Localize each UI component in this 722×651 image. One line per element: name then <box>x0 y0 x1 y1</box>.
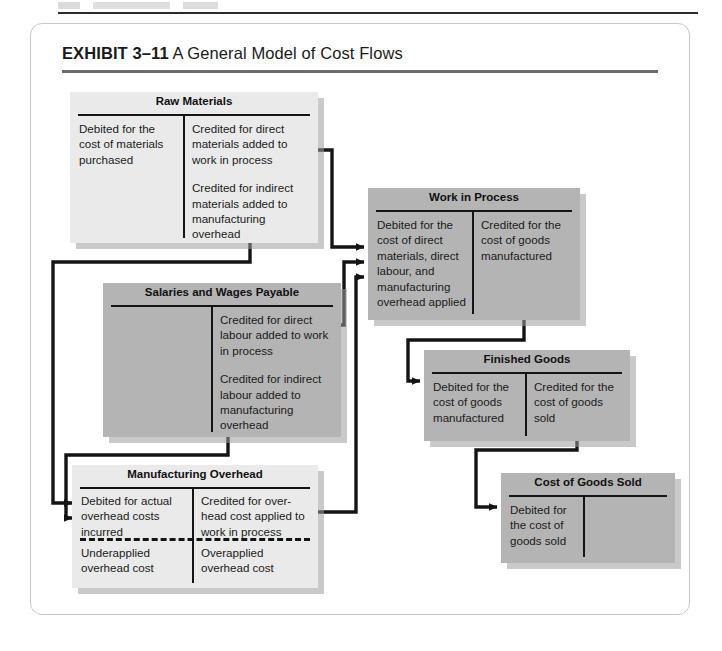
account-center-rule <box>583 497 585 557</box>
credit-entry: Credited for indirect materials added to… <box>192 180 310 242</box>
account-header-rule <box>509 495 667 497</box>
overapplied-entry: Overapplied overhead cost <box>201 545 313 576</box>
debit-entry: Debited for the cost of goods sold <box>510 502 580 548</box>
credit-entry: Credited for direct labour added to work… <box>220 312 334 358</box>
account-center-rule <box>211 307 213 432</box>
debit-column: Debited for the cost of goods manufactur… <box>433 379 523 425</box>
debit-column-below-line: Underapplied overhead cost <box>81 545 189 576</box>
account-title: Finished Goods <box>424 350 630 369</box>
debit-column: Debited for actual overhead costs incurr… <box>81 493 189 539</box>
credit-column: Credited for direct materials added to w… <box>192 121 310 242</box>
account-header-rule <box>78 114 310 116</box>
account-box-salaries-and-wages-payable: Salaries and Wages Payable Credited for … <box>103 283 341 437</box>
box-body: Finished Goods Debited for the cost of g… <box>424 350 630 441</box>
account-center-rule <box>472 212 474 314</box>
box-body: Raw Materials Debited for the cost of ma… <box>70 92 318 243</box>
credit-column: Credited for over-head cost applied to w… <box>201 493 313 539</box>
credit-entry: Credited for over-head cost applied to w… <box>201 493 313 539</box>
account-center-rule <box>192 489 194 583</box>
credit-entry: Credited for indirect labour added to ma… <box>220 371 334 433</box>
account-box-work-in-process: Work in Process Debited for the cost of … <box>368 188 580 320</box>
debit-entry: Debited for the cost of direct materials… <box>377 217 469 309</box>
debit-column: Debited for the cost of direct materials… <box>377 217 469 309</box>
account-box-manufacturing-overhead: Manufacturing Overhead Debited for actua… <box>72 465 318 588</box>
credit-column: Credited for the cost of goods sold <box>534 379 626 425</box>
account-center-rule <box>183 116 185 238</box>
credit-column-below-line: Overapplied overhead cost <box>201 545 313 576</box>
flow-rm-to-wip <box>318 150 364 247</box>
credit-column: Credited for the cost of goods manufactu… <box>481 217 573 263</box>
debit-entry: Debited for actual overhead costs incurr… <box>81 493 189 539</box>
debit-column: Debited for the cost of goods sold <box>510 502 580 548</box>
account-box-finished-goods: Finished Goods Debited for the cost of g… <box>424 350 630 441</box>
account-header-rule <box>111 305 333 307</box>
account-box-raw-materials: Raw Materials Debited for the cost of ma… <box>70 92 318 243</box>
account-header-rule <box>432 372 622 374</box>
box-body: Manufacturing Overhead Debited for actua… <box>72 465 318 588</box>
account-title: Manufacturing Overhead <box>72 465 318 484</box>
account-title: Salaries and Wages Payable <box>103 283 341 302</box>
credit-entry: Credited for the cost of goods manufactu… <box>481 217 573 263</box>
box-body: Work in Process Debited for the cost of … <box>368 188 580 320</box>
account-box-cost-of-goods-sold: Cost of Goods Sold Debited for the cost … <box>501 473 675 563</box>
credit-entry: Credited for the cost of goods sold <box>534 379 626 425</box>
account-title: Work in Process <box>368 188 580 207</box>
box-body: Salaries and Wages Payable Credited for … <box>103 283 341 437</box>
credit-column: Credited for direct labour added to work… <box>220 312 334 433</box>
box-body: Cost of Goods Sold Debited for the cost … <box>501 473 675 563</box>
account-title: Cost of Goods Sold <box>501 473 675 492</box>
account-center-rule <box>525 374 527 436</box>
credit-entry: Credited for direct materials added to w… <box>192 121 310 167</box>
account-header-rule <box>376 210 572 212</box>
account-title: Raw Materials <box>70 92 318 111</box>
account-header-rule <box>80 487 310 489</box>
debit-entry: Debited for the cost of goods manufactur… <box>433 379 523 425</box>
debit-entry: Debited for the cost of materials purcha… <box>79 121 179 167</box>
debit-column: Debited for the cost of materials purcha… <box>79 121 179 167</box>
underapplied-entry: Underapplied overhead cost <box>81 545 189 576</box>
